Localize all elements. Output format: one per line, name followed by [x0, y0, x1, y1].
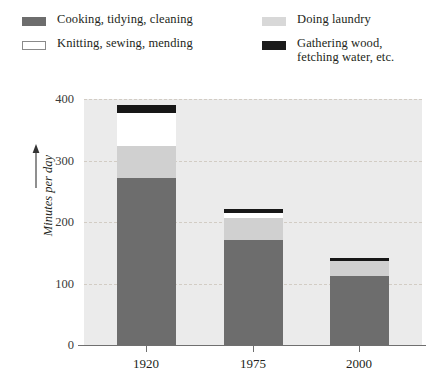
plot-container: Minutes per day	[0, 92, 441, 392]
gridline-400	[84, 99, 422, 100]
y-tick-0: 0	[34, 338, 74, 353]
x-tick-mark-1975	[253, 345, 254, 352]
chart-legend: Cooking, tidying, cleaning Knitting, sew…	[0, 0, 441, 92]
x-tick-mark-1920	[146, 345, 147, 352]
legend-label-laundry: Doing laundry	[297, 12, 371, 27]
y-tick-300: 300	[34, 153, 74, 168]
legend-column-left: Cooking, tidying, cleaning Knitting, sew…	[22, 12, 193, 59]
legend-swatch-laundry-icon	[262, 17, 286, 26]
bar-2000	[330, 258, 389, 345]
legend-label-cooking: Cooking, tidying, cleaning	[57, 12, 193, 27]
bar-1975	[224, 209, 283, 345]
bar-segment-2000-cooking	[330, 276, 389, 345]
bar-segment-1975-cooking	[224, 240, 283, 345]
x-tick-mark-2000	[359, 345, 360, 352]
x-axis-line	[78, 345, 426, 346]
bar-segment-1920-cooking	[117, 178, 176, 345]
bar-segment-1920-wood	[117, 105, 176, 112]
legend-label-gathering-wood: Gathering wood, fetching water, etc.	[297, 36, 394, 65]
legend-swatch-knitting-icon	[22, 41, 46, 50]
legend-column-right: Doing laundry Gathering wood, fetching w…	[262, 12, 394, 74]
legend-swatch-gathering-wood-icon	[262, 41, 286, 50]
legend-swatch-cooking-icon	[22, 17, 46, 26]
bar-segment-2000-laundry	[330, 261, 389, 276]
y-axis-tick-labels: 400 300 200 100 0	[30, 92, 74, 352]
y-tick-200: 200	[34, 215, 74, 230]
bar-segment-1975-laundry	[224, 218, 283, 240]
legend-label-knitting: Knitting, sewing, mending	[57, 36, 193, 51]
legend-item-knitting: Knitting, sewing, mending	[22, 36, 193, 51]
y-tick-100: 100	[34, 276, 74, 291]
legend-item-laundry: Doing laundry	[262, 12, 394, 27]
x-tick-2000: 2000	[346, 356, 372, 372]
bar-segment-1920-laundry	[117, 146, 176, 178]
household-time-stacked-bar-chart: Cooking, tidying, cleaning Knitting, sew…	[0, 0, 441, 392]
legend-item-cooking: Cooking, tidying, cleaning	[22, 12, 193, 27]
x-tick-1920: 1920	[133, 356, 159, 372]
x-tick-1975: 1975	[240, 356, 266, 372]
bar-segment-1920-knitting	[117, 113, 176, 146]
legend-item-gathering-wood: Gathering wood, fetching water, etc.	[262, 36, 394, 65]
y-tick-400: 400	[34, 92, 74, 107]
bar-1920	[117, 105, 176, 345]
plot-area	[84, 99, 422, 345]
